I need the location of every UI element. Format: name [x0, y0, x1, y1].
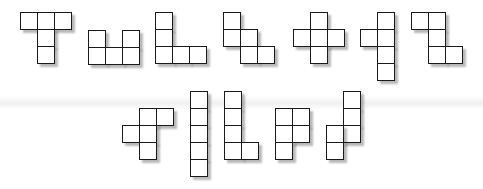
square-cell	[190, 142, 208, 160]
square-cell	[88, 30, 106, 48]
square-cell	[275, 125, 293, 143]
square-cell	[275, 142, 293, 160]
square-cell	[139, 125, 157, 143]
square-cell	[326, 142, 344, 160]
square-cell	[428, 46, 446, 64]
square-cell	[428, 12, 446, 30]
square-cell	[326, 125, 344, 143]
square-cell	[156, 108, 174, 126]
square-cell	[190, 91, 208, 109]
square-cell	[37, 46, 55, 64]
square-cell	[377, 29, 395, 47]
square-cell	[310, 29, 328, 47]
square-cell	[275, 108, 293, 126]
square-cell	[377, 46, 395, 64]
square-cell	[122, 125, 140, 143]
square-cell	[428, 29, 446, 47]
square-cell	[343, 125, 361, 143]
square-cell	[37, 29, 55, 47]
square-cell	[224, 142, 242, 160]
square-cell	[190, 108, 208, 126]
square-cell	[310, 12, 328, 30]
square-cell	[445, 46, 463, 64]
square-cell	[224, 91, 242, 109]
square-cell	[155, 29, 173, 47]
square-cell	[105, 47, 123, 65]
square-cell	[292, 108, 310, 126]
square-cell	[377, 63, 395, 81]
square-cell	[310, 46, 328, 64]
square-cell	[155, 46, 173, 64]
square-cell	[155, 12, 173, 30]
square-cell	[20, 12, 38, 30]
square-cell	[223, 12, 241, 30]
square-cell	[122, 30, 140, 48]
square-cell	[343, 91, 361, 109]
square-cell	[327, 29, 345, 47]
square-cell	[360, 29, 378, 47]
square-cell	[411, 12, 429, 30]
square-cell	[172, 46, 190, 64]
square-cell	[292, 125, 310, 143]
square-cell	[139, 108, 157, 126]
square-cell	[139, 142, 157, 160]
square-cell	[223, 29, 241, 47]
square-cell	[241, 142, 259, 160]
square-cell	[190, 159, 208, 177]
square-cell	[122, 47, 140, 65]
square-cell	[54, 12, 72, 30]
square-cell	[189, 46, 207, 64]
square-cell	[257, 46, 275, 64]
square-cell	[224, 125, 242, 143]
square-cell	[190, 125, 208, 143]
square-cell	[37, 12, 55, 30]
square-cell	[88, 47, 106, 65]
square-cell	[240, 46, 258, 64]
square-cell	[343, 108, 361, 126]
square-cell	[377, 12, 395, 30]
square-cell	[224, 108, 242, 126]
square-cell	[240, 29, 258, 47]
square-cell	[293, 29, 311, 47]
